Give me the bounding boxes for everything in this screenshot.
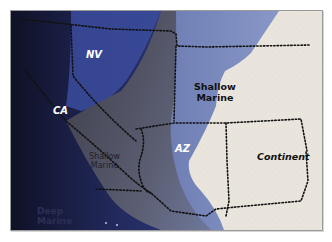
label-az: AZ: [175, 143, 190, 155]
map-frame: NV CA AZ Shallow Marine Shallow Marine C…: [10, 10, 323, 231]
label-line: Marine: [89, 161, 120, 170]
label-line: Deep: [37, 206, 72, 216]
label-shallow-marine-north: Shallow Marine: [194, 82, 236, 104]
label-ca: CA: [53, 105, 68, 117]
label-shallow-marine-south: Shallow Marine: [89, 152, 120, 170]
map-canvas: [11, 11, 322, 230]
label-nv: NV: [86, 49, 102, 61]
label-line: Marine: [194, 93, 236, 104]
label-deep-marine: Deep Marine: [37, 206, 72, 227]
label-line: Shallow: [89, 152, 120, 161]
label-line: Marine: [37, 216, 72, 226]
label-continent: Continent: [257, 152, 310, 163]
